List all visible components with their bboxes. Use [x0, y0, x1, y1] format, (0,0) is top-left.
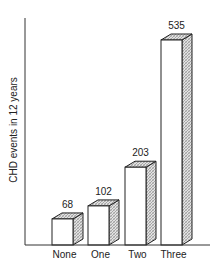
x-tick-label: Three	[160, 249, 187, 260]
x-tick-labels: NoneOneTwoThree	[53, 249, 187, 260]
bar-none: 68	[52, 199, 83, 245]
bar-front-face	[88, 206, 109, 245]
bar-side-face	[109, 200, 119, 245]
x-tick-label: One	[91, 249, 110, 260]
bar-value-label: 535	[168, 20, 185, 31]
bar-one: 102	[88, 186, 119, 245]
bar-value-label: 102	[95, 186, 112, 197]
bars-group: 68102203535	[52, 20, 192, 245]
y-axis-label: CHD events in 12 years	[8, 77, 19, 183]
bar-value-label: 203	[132, 147, 149, 158]
bar-chart: 68102203535 NoneOneTwoThree CHD events i…	[0, 0, 221, 268]
bar-front-face	[161, 40, 182, 245]
bar-side-face	[182, 34, 192, 245]
bar-front-face	[52, 219, 73, 245]
x-tick-label: Two	[128, 249, 147, 260]
x-tick-label: None	[53, 249, 77, 260]
bar-front-face	[125, 167, 146, 245]
bar-value-label: 68	[62, 199, 74, 210]
bar-side-face	[146, 161, 156, 245]
chart-container: 68102203535 NoneOneTwoThree CHD events i…	[0, 0, 221, 268]
bar-three: 535	[161, 20, 192, 245]
bar-two: 203	[125, 147, 156, 245]
